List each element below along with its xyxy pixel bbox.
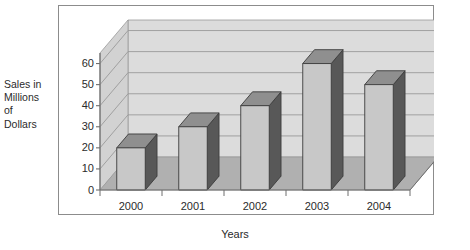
x-axis-title: Years [0,228,470,240]
chart-plot-area [58,5,434,215]
y-tick-label: 40 [68,100,94,111]
y-tick-label: 30 [68,121,94,132]
bar-2003 [303,50,343,190]
bar-2001 [179,113,219,190]
y-tick-label: 60 [68,58,94,69]
bar-chart: Sales in Millions of Dollars 01020304050… [0,0,470,250]
x-tick-label: 2004 [356,201,402,212]
y-tick-label: 10 [68,163,94,174]
bar-2004 [365,71,405,190]
y-tick-label: 50 [68,79,94,90]
x-tick-label: 2000 [108,201,154,212]
x-tick-label: 2002 [232,201,278,212]
y-axis-title: Sales in Millions of Dollars [4,78,58,131]
x-tick-label: 2001 [170,201,216,212]
bar-2000 [117,134,157,190]
x-tick-label: 2003 [294,201,340,212]
y-tick-label: 0 [68,185,94,196]
bar-2002 [241,92,281,190]
y-tick-label: 20 [68,142,94,153]
